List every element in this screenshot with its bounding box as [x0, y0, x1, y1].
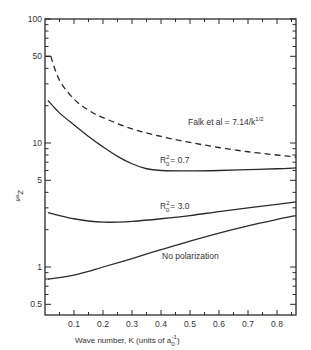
x-axis-title: Wave number, K (units of a0-1)	[75, 334, 180, 347]
plot-frame	[45, 19, 296, 315]
r07-label: R20= 0.7	[160, 154, 190, 167]
x-tick-label: 0.4	[155, 319, 167, 329]
y-axis-title: Zeff	[15, 190, 25, 202]
x-tick-label: 0.5	[184, 319, 196, 329]
x-tick-label: 0.8	[271, 319, 283, 329]
no-polarization-label: No polarization	[162, 251, 219, 261]
y-tick-label: 0.5	[30, 299, 42, 309]
x-tick-label: 0.6	[213, 319, 225, 329]
y-tick-label: 10	[33, 138, 43, 148]
x-tick-label: 0.7	[242, 319, 254, 329]
falk-label: Falk et al = 7.14/k1/2	[188, 116, 264, 127]
x-tick-label: 0.3	[126, 319, 138, 329]
y-tick-label: 5	[37, 175, 42, 185]
plot-border	[45, 19, 296, 315]
y-tick-label: 100	[28, 14, 42, 24]
y-tick-label: 50	[33, 51, 43, 61]
y-tick-label: 1	[37, 262, 42, 272]
x-tick-label: 0.1	[68, 319, 80, 329]
chart: 0.5151050100 0.10.20.30.40.50.60.70.8 Fa…	[0, 0, 311, 350]
x-tick-label: 0.2	[97, 319, 109, 329]
falk-curve	[51, 56, 296, 157]
r30-label: R20= 3.0	[160, 200, 190, 213]
no-polarization-curve	[48, 216, 296, 279]
data-curves	[45, 56, 296, 279]
x-axis-ticks: 0.10.20.30.40.50.60.70.8	[60, 19, 292, 329]
